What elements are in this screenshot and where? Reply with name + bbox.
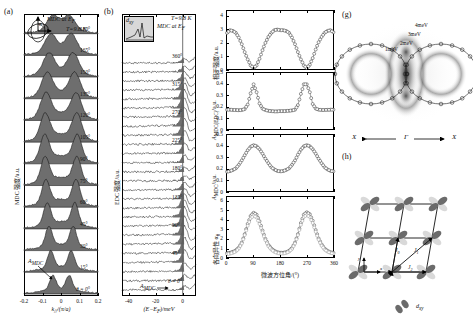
panel-a-tick [98,293,99,296]
panel_f-ytick-label: 6 [207,197,223,203]
panel-xtick [253,255,254,258]
panel_c-ytick-label: 1 [207,53,223,59]
panel-h-legend [392,300,414,314]
panel-a-angle-label: 75° [80,178,88,184]
panel_c-ytick-label: 4 [207,12,223,18]
panel-xtick [334,255,335,258]
panel_f-ytick-label: 4 [207,216,223,222]
panel-xtick [226,72,227,75]
panel-b-xtick-label: 0 [173,298,193,304]
panel_f-ytick [226,201,229,202]
panel-xtick [280,72,281,75]
panel-h-coupling-label: J1 [414,247,418,255]
panel-g-contour-label: 4meV [415,22,428,28]
panel-xtick [307,72,308,75]
panel_c-ytick [226,43,229,44]
panel-xtick [253,67,254,70]
panel-xtick [334,127,335,130]
panel-xtick [280,196,281,199]
panel-c-plot [226,10,334,70]
panel-b-xtick-label: -20 [146,298,166,304]
panel-b-angle-label: 90° [172,222,180,228]
panel_e-ytick [226,157,229,158]
panel-a-angle-label: 165° [80,47,90,53]
panel_f-ytick-label: 5 [207,207,223,213]
panel-xtick [334,10,335,13]
panel-b-temperature: T=9.8 K [171,15,191,21]
panel-a-label: (a) [4,7,13,16]
panel-b-angle-label: 225° [172,137,182,143]
panel_f-ytick [226,229,229,230]
panel-h-lattice: J0J1J2 y x [340,160,470,320]
panel-b-xlabel: (E−EF)/meV [122,306,196,314]
panel_f-ytick-label: 3 [207,226,223,232]
panel-h-legend-orbital-icon [392,300,414,314]
panel-g-contour-label: 2meV [400,40,413,46]
panel-b-angle-label: 315° [172,81,182,87]
panel-e-series [227,135,333,191]
panel-xtick [280,134,281,137]
panel-a-angle-label: 60° [80,199,88,205]
panel-xtick [253,10,254,13]
panel_d-ytick [226,118,229,119]
panel_e-ytick [226,146,229,147]
panel-h-coupling-label: J2 [408,264,412,272]
panel-a-angle-label: θ = 0° [76,286,90,292]
panel-b-angle-label: 135° [172,194,182,200]
figure-root: (a) MDC 强度/a.u. θ MDC at EF T=9.8 K 180°… [0,0,473,328]
panel_d-ytick-label: 0.1 [207,115,223,121]
svg-text:θ: θ [39,22,42,27]
panel-d-plot [226,72,334,130]
panel-b-angle-label: 360° [172,53,182,59]
panel-a-angle-label: 30° [80,243,88,249]
panel_f-ytick [226,220,229,221]
panel-xtick [280,255,281,258]
panel_e-ytick-label: 0.4 [207,142,223,148]
panel_d-ytick-label: 0.3 [207,92,223,98]
panel-a-angle-label: 150° [80,69,90,75]
panel-g-svg [345,18,467,130]
panel-a-tick [24,14,25,17]
panel-b-angle-label: θ = 0° [168,278,182,284]
panel-xtick [334,189,335,192]
panel-a-angle-label: 15° [80,264,88,270]
panel-xtick [307,255,308,258]
panel_e-ytick-label: 0.3 [207,154,223,160]
panel-g-axis-left: X [352,133,356,141]
panel-h-svg: J0J1J2 y x [340,160,470,320]
panel-xtick [226,255,227,258]
panel_c-ytick-label: 3 [207,26,223,32]
panel-xtick [226,10,227,13]
panel-b-tick [183,293,184,296]
panel-xtick [334,67,335,70]
panel-b-angle-label: 180° [172,165,182,171]
panel-a-annotation: AMDC [28,258,43,266]
panel_e-ytick-label: 0.1 [207,177,223,183]
panel-b-label: (b) [104,7,113,16]
panel_f-ytick [226,210,229,211]
panel-xtick [307,134,308,137]
panel-f-plot [226,196,334,258]
panel_f-ytick [226,249,229,250]
panel_f-ytick-label: 2 [207,235,223,241]
panel_d-ytick [226,95,229,96]
panel-d-series [227,73,333,129]
panel-h-orbital-label: dxy [416,303,424,311]
panel-f-series [227,197,333,257]
panel-b-content [122,14,196,296]
panel_d-ytick-label: 0.2 [207,103,223,109]
panel_f-ytick [226,239,229,240]
panel-b-tick [156,14,157,17]
panel-a-tick [43,293,44,296]
panel_e-ytick [226,169,229,170]
panel-a-title-sub: F [72,18,75,24]
panel-a-angle-label: 120° [80,112,90,118]
panel_e-ytick [226,192,229,193]
panel-xtick [307,196,308,199]
panel_c-ytick [226,29,229,30]
panel-g-contour-label: 1meV [385,46,398,52]
panel-a-xtick-label: -0.1 [33,298,53,304]
panel-a-tick [80,14,81,17]
panel-a-xtick-label: 0.2 [88,298,108,304]
svg-text:x: x [379,266,383,271]
